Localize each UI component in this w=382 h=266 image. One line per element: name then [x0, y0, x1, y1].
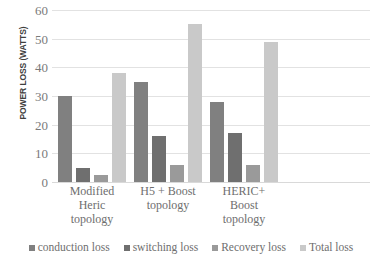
- bar-group: [210, 10, 278, 182]
- bar-group: [134, 10, 202, 182]
- x-axis-category-label-line: topology: [56, 212, 128, 226]
- x-axis-category-label: H5 + Boosttopology: [132, 184, 204, 212]
- bar-chart: POWER LOSS (WATTS) 0102030405060 Modifie…: [0, 0, 382, 266]
- bar[interactable]: [170, 165, 184, 182]
- bar-group: [58, 10, 126, 182]
- x-axis-line: [52, 182, 370, 183]
- y-axis-tick: 40: [22, 61, 48, 74]
- bar[interactable]: [188, 24, 202, 182]
- legend-label: Total loss: [309, 242, 353, 254]
- bar[interactable]: [152, 136, 166, 182]
- y-axis-tick: 60: [22, 4, 48, 17]
- chart-legend: conduction lossswitching lossRecovery lo…: [0, 240, 382, 256]
- bar[interactable]: [134, 82, 148, 182]
- bar[interactable]: [58, 96, 72, 182]
- x-axis-category-label-line: HERIC+: [208, 184, 280, 198]
- x-axis-category-label: HERIC+Boosttopology: [208, 184, 280, 226]
- y-axis-tick: 50: [22, 32, 48, 45]
- x-axis-category-label-line: H5 + Boost: [132, 184, 204, 198]
- y-axis-tick: 20: [22, 118, 48, 131]
- x-axis-category-label-line: topology: [208, 212, 280, 226]
- legend-label: conduction loss: [38, 242, 110, 254]
- y-axis-tick: 30: [22, 90, 48, 103]
- legend-label: switching loss: [133, 242, 199, 254]
- legend-item[interactable]: Recovery loss: [212, 242, 286, 254]
- bar[interactable]: [246, 165, 260, 182]
- x-axis-category-label-line: Boost: [208, 198, 280, 212]
- y-axis-tick-labels: 0102030405060: [22, 4, 48, 190]
- legend-swatch-icon: [212, 245, 218, 251]
- bar[interactable]: [228, 133, 242, 182]
- legend-item[interactable]: conduction loss: [29, 242, 110, 254]
- bars-layer: [52, 10, 370, 182]
- legend-swatch-icon: [124, 245, 130, 251]
- bar[interactable]: [264, 42, 278, 182]
- x-axis-category-labels: ModifiedHerictopologyH5 + BoosttopologyH…: [52, 184, 370, 236]
- bar[interactable]: [210, 102, 224, 182]
- x-axis-category-label-line: topology: [132, 198, 204, 212]
- y-axis-tick: 10: [22, 147, 48, 160]
- bar[interactable]: [112, 73, 126, 182]
- legend-item[interactable]: Total loss: [300, 242, 353, 254]
- bar[interactable]: [76, 168, 90, 182]
- y-axis-tick: 0: [22, 176, 48, 189]
- legend-label: Recovery loss: [221, 242, 286, 254]
- x-axis-category-label-line: Modified: [56, 184, 128, 198]
- x-axis-category-label: ModifiedHerictopology: [56, 184, 128, 226]
- legend-swatch-icon: [300, 245, 306, 251]
- x-axis-category-label-line: Heric: [56, 198, 128, 212]
- legend-item[interactable]: switching loss: [124, 242, 199, 254]
- bar[interactable]: [94, 175, 108, 182]
- legend-swatch-icon: [29, 245, 35, 251]
